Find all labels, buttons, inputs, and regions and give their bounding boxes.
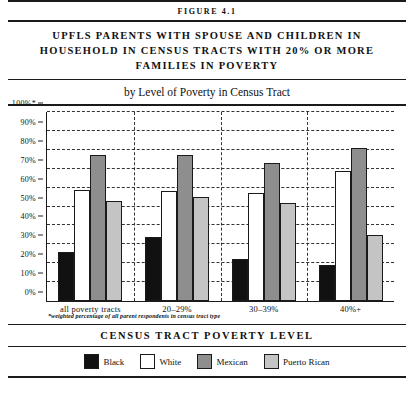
legend-item-mexican: Mexican (197, 354, 248, 369)
bar-group: all poverty tracts (47, 112, 134, 301)
y-axis-tick-label: 0% (25, 288, 47, 297)
bar-group: 40%+ (307, 112, 394, 301)
legend-label: Mexican (216, 357, 248, 367)
chart-bar-groups: all poverty tracts20–29%30–39%40%+ (47, 112, 394, 301)
legend-swatch-icon (140, 354, 155, 369)
y-axis-tick-label: 70% (20, 155, 47, 164)
y-axis-tick-label: 50% (20, 193, 47, 202)
bar-puertorican (193, 197, 209, 301)
bar-white (248, 193, 264, 301)
bar-mexican (264, 163, 280, 301)
legend-label: Black (103, 357, 124, 367)
x-axis-category-label: 30–39% (221, 301, 308, 314)
y-axis-tick-label: 100%* (12, 99, 47, 108)
bar-white (161, 191, 177, 301)
bar-white (74, 190, 90, 302)
bar-black (232, 259, 248, 301)
chart-legend: BlackWhiteMexicanPuerto Rican (8, 347, 406, 376)
bar-black (319, 265, 335, 301)
legend-label: White (159, 357, 181, 367)
x-axis-caption: CENSUS TRACT POVERTY LEVEL (8, 325, 406, 346)
figure-title: UPFLS PARENTS WITH SPOUSE AND CHILDREN I… (8, 22, 406, 79)
bar-puertorican (106, 201, 122, 301)
legend-label: Puerto Rican (283, 357, 330, 367)
y-axis-tick-label: 40% (20, 212, 47, 221)
bar-group: 20–29% (134, 112, 221, 301)
bar-puertorican (367, 235, 383, 301)
bar-black (145, 237, 161, 301)
y-axis-tick-label: 20% (20, 250, 47, 259)
y-axis-tick-label: 80% (20, 136, 47, 145)
chart-footnote: *weighted percentage of all parent respo… (48, 313, 220, 319)
legend-item-puertorican: Puerto Rican (264, 354, 330, 369)
y-axis-tick-label: 60% (20, 174, 47, 183)
bar-group: 30–39% (221, 112, 308, 301)
bar-mexican (90, 155, 106, 301)
x-axis-category-label: 40%+ (307, 301, 394, 314)
y-axis-tick-label: 30% (20, 231, 47, 240)
legend-swatch-icon (264, 354, 279, 369)
legend-swatch-icon (84, 354, 99, 369)
bar-black (58, 252, 74, 301)
legend-swatch-icon (197, 354, 212, 369)
legend-item-black: Black (84, 354, 124, 369)
y-axis-tick-label: 90% (20, 117, 47, 126)
bar-mexican (351, 148, 367, 301)
rule-bottom (8, 376, 406, 378)
figure-page: FIGURE 4.1 UPFLS PARENTS WITH SPOUSE AND… (0, 0, 414, 396)
bar-puertorican (280, 203, 296, 301)
chart-plot-area: 0%10%20%30%40%50%60%70%80%90%100%* all p… (46, 112, 394, 302)
figure-subtitle: by Level of Poverty in Census Tract (8, 80, 406, 104)
bar-white (335, 171, 351, 301)
figure-number: FIGURE 4.1 (8, 2, 406, 20)
y-axis-tick-label: 10% (20, 269, 47, 278)
chart-plot-wrapper: 0%10%20%30%40%50%60%70%80%90%100%* all p… (8, 106, 406, 324)
bar-mexican (177, 155, 193, 301)
legend-item-white: White (140, 354, 181, 369)
